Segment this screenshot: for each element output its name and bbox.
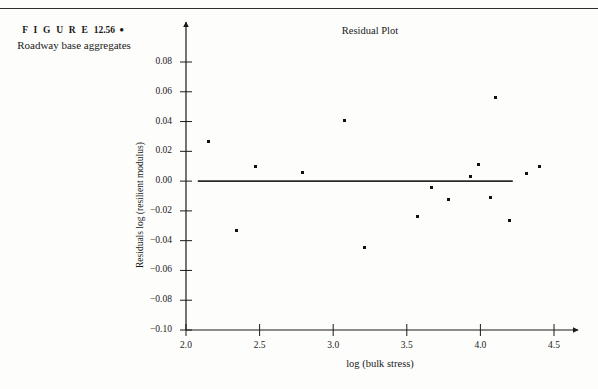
y-tick-label: −0.06 bbox=[136, 264, 172, 274]
data-point bbox=[301, 171, 304, 174]
data-point bbox=[538, 165, 541, 168]
y-tick-label: 0.06 bbox=[136, 86, 172, 96]
y-tick-label: 0.08 bbox=[136, 56, 172, 66]
y-tick-label: −0.08 bbox=[136, 294, 172, 304]
y-tick-label: −0.10 bbox=[136, 324, 172, 334]
y-tick-label: 0.04 bbox=[136, 116, 172, 126]
x-tick-label: 3.5 bbox=[392, 340, 422, 350]
data-point bbox=[207, 140, 210, 143]
chart-axes bbox=[0, 0, 598, 389]
figure-page: F I G U R E 12.56 ● Roadway base aggrega… bbox=[0, 0, 598, 389]
data-point bbox=[489, 196, 492, 199]
y-tick-label: −0.02 bbox=[136, 205, 172, 215]
data-point bbox=[416, 215, 419, 218]
data-point bbox=[447, 198, 450, 201]
residual-plot: Residual Plot Residuals log (resilient m… bbox=[0, 0, 598, 389]
y-tick-label: 0.02 bbox=[136, 145, 172, 155]
x-tick-label: 2.0 bbox=[171, 340, 201, 350]
data-point bbox=[343, 119, 346, 122]
data-point bbox=[363, 246, 366, 249]
data-point bbox=[430, 186, 433, 189]
x-axis-label: log (bulk stress) bbox=[300, 358, 460, 369]
data-point bbox=[508, 219, 511, 222]
x-tick-label: 3.0 bbox=[318, 340, 348, 350]
x-tick-label: 4.5 bbox=[539, 340, 569, 350]
data-point bbox=[254, 165, 257, 168]
data-point bbox=[477, 163, 480, 166]
x-tick-label: 4.0 bbox=[465, 340, 495, 350]
y-tick-label: 0.00 bbox=[136, 175, 172, 185]
data-point bbox=[235, 229, 238, 232]
data-point bbox=[525, 172, 528, 175]
y-tick-label: −0.04 bbox=[136, 235, 172, 245]
data-point bbox=[469, 175, 472, 178]
data-point bbox=[494, 96, 497, 99]
x-tick-label: 2.5 bbox=[245, 340, 275, 350]
